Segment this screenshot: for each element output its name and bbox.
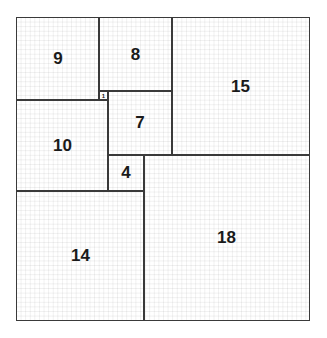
square-10: 10 xyxy=(16,99,109,192)
square-label: 10 xyxy=(53,136,72,156)
square-label: 7 xyxy=(135,113,144,133)
square-7: 7 xyxy=(107,90,173,156)
square-14: 14 xyxy=(16,190,145,321)
square-label: 15 xyxy=(231,77,250,97)
square-label: 4 xyxy=(121,163,130,183)
square-label: 8 xyxy=(131,45,140,65)
square-18: 18 xyxy=(143,154,310,321)
square-label: 14 xyxy=(71,246,90,266)
square-4: 4 xyxy=(107,154,145,192)
square-label: 9 xyxy=(53,49,62,69)
square-15: 15 xyxy=(171,17,310,156)
squared-rectangle-diagram: 9 8 15 1 7 10 4 18 14 xyxy=(16,17,310,321)
square-label: 1 xyxy=(102,93,105,99)
square-9: 9 xyxy=(16,17,100,101)
square-label: 18 xyxy=(217,228,236,248)
square-8: 8 xyxy=(98,17,173,92)
